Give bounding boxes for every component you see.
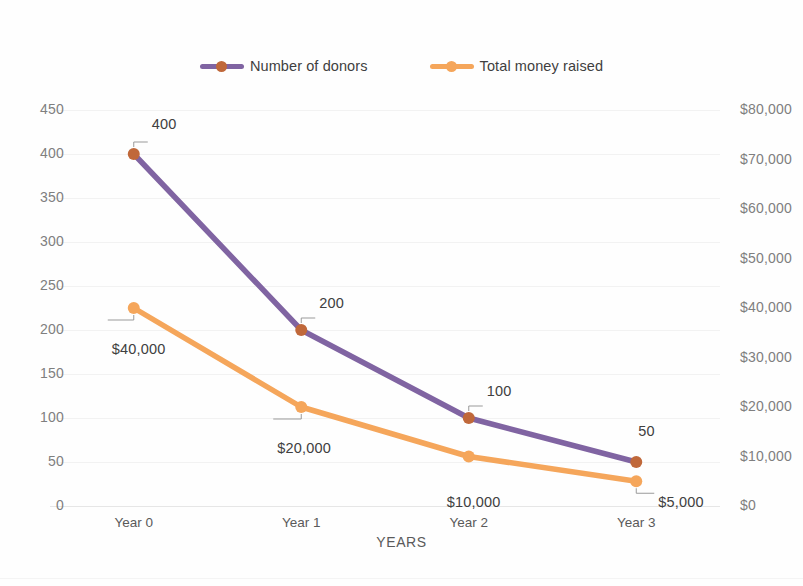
right-axis-tick-label: $30,000 xyxy=(740,349,792,365)
right-axis-tick-label: $10,000 xyxy=(740,448,792,464)
x-axis-title: YEARS xyxy=(0,534,803,550)
data-label: $5,000 xyxy=(658,494,704,510)
left-axis-tick-label: 0 xyxy=(56,497,64,513)
gridline xyxy=(50,154,720,155)
gridline xyxy=(50,462,720,463)
left-axis-tick-label: 100 xyxy=(40,409,64,425)
footer-divider xyxy=(0,578,803,579)
x-axis-tick-label: Year 3 xyxy=(617,515,656,530)
data-label: $20,000 xyxy=(277,440,331,456)
right-axis-tick-label: $40,000 xyxy=(740,299,792,315)
legend-label-donors: Number of donors xyxy=(250,58,368,74)
left-axis-tick-label: 250 xyxy=(40,277,64,293)
legend-label-money: Total money raised xyxy=(480,58,604,74)
line-chart: Number of donors Total money raised 0501… xyxy=(0,0,803,586)
gridline xyxy=(50,198,720,199)
right-axis-tick-label: $60,000 xyxy=(740,200,792,216)
data-label: 50 xyxy=(638,423,655,439)
x-axis-tick-label: Year 2 xyxy=(449,515,488,530)
left-axis-tick-label: 50 xyxy=(48,453,64,469)
left-axis-tick-label: 350 xyxy=(40,189,64,205)
left-axis-tick-label: 150 xyxy=(40,365,64,381)
left-axis-tick-label: 300 xyxy=(40,233,64,249)
plot-area xyxy=(50,110,720,506)
x-axis-line xyxy=(50,506,720,507)
right-axis-tick-label: $0 xyxy=(740,497,756,513)
gridline xyxy=(50,286,720,287)
data-label: 200 xyxy=(319,295,344,311)
right-axis-tick-label: $70,000 xyxy=(740,151,792,167)
left-axis-tick-label: 450 xyxy=(40,101,64,117)
data-label: $10,000 xyxy=(447,494,501,510)
gridline xyxy=(50,418,720,419)
gridline xyxy=(50,242,720,243)
right-axis-tick-label: $20,000 xyxy=(740,398,792,414)
right-axis-tick-label: $80,000 xyxy=(740,101,792,117)
data-label: $40,000 xyxy=(112,341,166,357)
legend-item-money[interactable]: Total money raised xyxy=(430,58,604,74)
data-label: 100 xyxy=(487,383,512,399)
right-axis-tick-label: $50,000 xyxy=(740,250,792,266)
x-axis-tick-label: Year 0 xyxy=(114,515,153,530)
gridline xyxy=(50,374,720,375)
left-axis-tick-label: 200 xyxy=(40,321,64,337)
legend-marker-money-icon xyxy=(430,58,474,74)
x-axis-tick-label: Year 1 xyxy=(282,515,321,530)
legend-marker-donors-icon xyxy=(200,58,244,74)
data-label: 400 xyxy=(152,116,177,132)
legend-item-donors[interactable]: Number of donors xyxy=(200,58,368,74)
chart-legend: Number of donors Total money raised xyxy=(0,58,803,74)
gridline xyxy=(50,110,720,111)
gridline xyxy=(50,330,720,331)
left-axis-tick-label: 400 xyxy=(40,145,64,161)
